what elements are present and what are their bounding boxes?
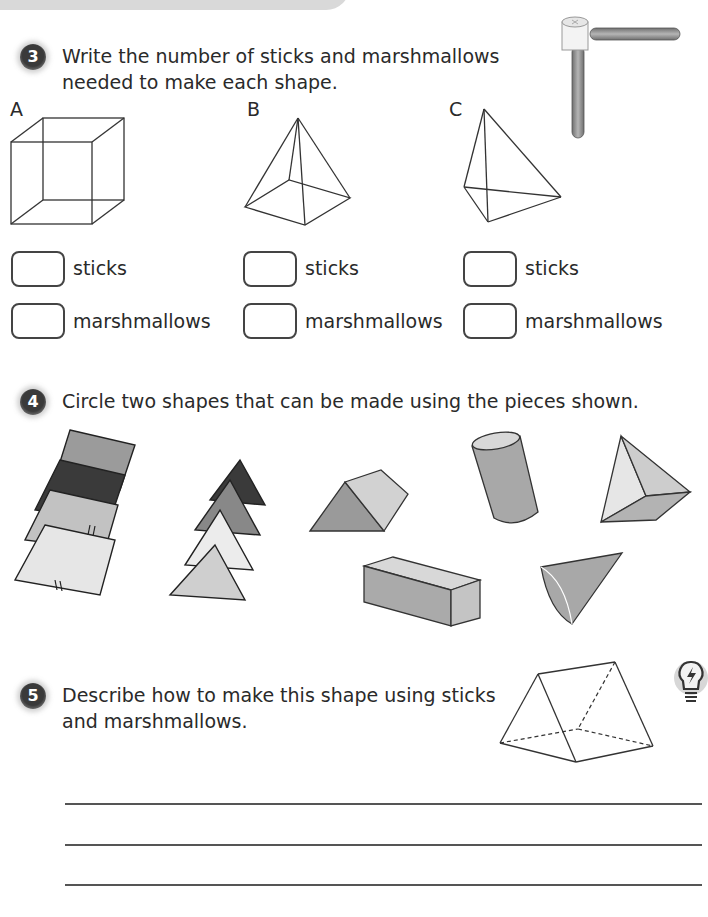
marshmallows-answer-box-c[interactable] — [463, 303, 517, 339]
triangular-prism-wireframe — [498, 660, 663, 770]
sticks-label: sticks — [525, 257, 579, 279]
triangular-prism-option[interactable] — [308, 468, 408, 538]
cone-option[interactable] — [537, 551, 632, 636]
sticks-answer-box-c[interactable] — [463, 251, 517, 287]
question-3-text-line2: needed to make each shape. — [62, 70, 338, 95]
marshmallows-answer-box-a[interactable] — [11, 303, 65, 339]
square-pyramid-wireframe — [240, 95, 360, 225]
header-bar — [0, 0, 350, 10]
question-5-text-line2: and marshmallows. — [62, 709, 248, 734]
question-number-badge: 3 — [20, 44, 46, 70]
sticks-label: sticks — [73, 257, 127, 279]
question-5-text-line1: Describe how to make this shape using st… — [62, 683, 496, 708]
marshmallows-answer-box-b[interactable] — [243, 303, 297, 339]
marshmallows-label: marshmallows — [305, 310, 443, 332]
sticks-answer-box-b[interactable] — [243, 251, 297, 287]
tetrahedron-option[interactable] — [596, 434, 696, 529]
lightbulb-icon[interactable] — [673, 656, 708, 712]
question-number-badge: 4 — [20, 389, 46, 415]
question-4-text: Circle two shapes that can be made using… — [62, 389, 639, 414]
question-3-text-line1: Write the number of sticks and marshmall… — [62, 44, 499, 69]
answer-line[interactable] — [65, 844, 702, 846]
marshmallows-label: marshmallows — [73, 310, 211, 332]
sticks-answer-box-a[interactable] — [11, 251, 65, 287]
triangle-pieces-icon — [165, 460, 265, 630]
sticks-label: sticks — [305, 257, 359, 279]
cube-wireframe — [0, 95, 130, 225]
question-number-badge: 5 — [20, 683, 46, 709]
marshmallows-label: marshmallows — [525, 310, 663, 332]
cuboid-option[interactable] — [362, 556, 487, 631]
answer-line[interactable] — [65, 803, 702, 805]
square-pieces-icon — [10, 430, 140, 610]
tetrahedron-wireframe — [460, 95, 580, 225]
answer-line[interactable] — [65, 884, 702, 886]
cylinder-option[interactable] — [468, 430, 558, 530]
